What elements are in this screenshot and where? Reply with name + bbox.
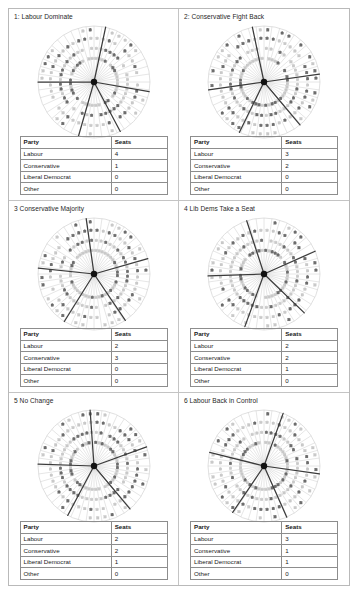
cell-party-name: Conservative (20, 352, 111, 364)
table-row: Liberal Democrat1 (191, 363, 338, 375)
column-header-seats: Seats (111, 329, 167, 341)
cell-seat-count: 0 (282, 568, 338, 580)
table-row: Labour4 (20, 148, 167, 160)
table-row: Conservative3 (20, 352, 167, 364)
wheel-canvas (35, 215, 153, 333)
cell-seat-count: 2 (111, 340, 167, 352)
seat-wheel-diagram (9, 405, 178, 527)
wheel-canvas (35, 407, 153, 525)
panel-6: 6 Labour Back in ControlPartySeatsLabour… (179, 393, 349, 585)
cell-seat-count: 2 (111, 533, 167, 545)
cell-party-name: Conservative (191, 160, 282, 172)
seat-wheel-diagram (9, 21, 178, 143)
cell-seat-count: 0 (111, 171, 167, 183)
cell-seat-count: 1 (111, 160, 167, 172)
panel-title: 3 Conservative Majority (9, 201, 178, 213)
table-row: Labour3 (191, 148, 338, 160)
panel-title: 4 Lib Dems Take a Seat (179, 201, 349, 213)
cell-party-name: Other (191, 183, 282, 195)
panel-title: 1: Labour Dominate (9, 9, 178, 21)
table-row: Labour3 (191, 533, 338, 545)
seats-table-wrapper: PartySeatsLabour4Conservative1Liberal De… (20, 136, 168, 195)
cell-party-name: Labour (20, 148, 111, 160)
column-header-party: Party (20, 329, 111, 341)
cell-party-name: Other (20, 183, 111, 195)
panel-1: 1: Labour DominatePartySeatsLabour4Conse… (9, 9, 179, 201)
cell-party-name: Conservative (20, 545, 111, 557)
cell-party-name: Labour (20, 340, 111, 352)
cell-party-name: Liberal Democrat (20, 171, 111, 183)
cell-seat-count: 0 (111, 183, 167, 195)
cell-seat-count: 2 (282, 160, 338, 172)
table-row: Liberal Democrat1 (20, 556, 167, 568)
cell-party-name: Liberal Democrat (20, 363, 111, 375)
seats-table: PartySeatsLabour4Conservative1Liberal De… (20, 136, 168, 195)
table-row: Other0 (191, 568, 338, 580)
seats-table: PartySeatsLabour2Conservative3Liberal De… (20, 328, 168, 387)
table-row: Labour2 (20, 340, 167, 352)
panel-title: 6 Labour Back in Control (179, 393, 349, 405)
seats-table-wrapper: PartySeatsLabour3Conservative2Liberal De… (190, 136, 338, 195)
cell-party-name: Labour (191, 148, 282, 160)
seat-wheel-diagram (9, 213, 178, 335)
cell-seat-count: 0 (111, 375, 167, 387)
table-row: Liberal Democrat0 (20, 363, 167, 375)
cell-party-name: Liberal Democrat (191, 171, 282, 183)
wheel-canvas (35, 23, 153, 141)
table-row: Liberal Democrat0 (191, 171, 338, 183)
table-header-row: PartySeats (20, 137, 167, 149)
cell-party-name: Other (191, 375, 282, 387)
cell-party-name: Liberal Democrat (191, 556, 282, 568)
cell-seat-count: 2 (282, 340, 338, 352)
cell-seat-count: 0 (111, 363, 167, 375)
seats-table: PartySeatsLabour3Conservative2Liberal De… (190, 136, 338, 195)
table-header-row: PartySeats (191, 522, 338, 534)
wheel-canvas (205, 215, 323, 333)
cell-party-name: Other (191, 568, 282, 580)
seats-table-wrapper: PartySeatsLabour2Conservative3Liberal De… (20, 328, 168, 387)
table-row: Conservative1 (191, 545, 338, 557)
cell-party-name: Labour (20, 533, 111, 545)
cell-seat-count: 1 (282, 545, 338, 557)
cell-seat-count: 2 (111, 545, 167, 557)
cell-party-name: Labour (191, 533, 282, 545)
column-header-seats: Seats (282, 137, 338, 149)
column-header-party: Party (191, 522, 282, 534)
panel-title: 5 No Change (9, 393, 178, 405)
column-header-party: Party (20, 137, 111, 149)
cell-seat-count: 0 (111, 568, 167, 580)
table-row: Conservative2 (20, 545, 167, 557)
seats-table: PartySeatsLabour2Conservative2Liberal De… (190, 328, 338, 387)
column-header-seats: Seats (282, 522, 338, 534)
cell-seat-count: 1 (282, 556, 338, 568)
cell-seat-count: 0 (282, 183, 338, 195)
wheel-canvas (205, 407, 323, 525)
panel-5: 5 No ChangePartySeatsLabour2Conservative… (9, 393, 179, 585)
column-header-seats: Seats (282, 329, 338, 341)
cell-seat-count: 4 (111, 148, 167, 160)
table-row: Other0 (191, 375, 338, 387)
seat-wheel-diagram (179, 213, 349, 335)
table-row: Liberal Democrat1 (191, 556, 338, 568)
cell-party-name: Labour (191, 340, 282, 352)
cell-party-name: Conservative (191, 545, 282, 557)
cell-party-name: Liberal Democrat (20, 556, 111, 568)
cell-party-name: Liberal Democrat (191, 363, 282, 375)
seats-table-wrapper: PartySeatsLabour2Conservative2Liberal De… (20, 521, 168, 580)
seats-table: PartySeatsLabour2Conservative2Liberal De… (20, 521, 168, 580)
cell-party-name: Other (20, 375, 111, 387)
table-row: Liberal Democrat0 (20, 171, 167, 183)
table-row: Conservative1 (20, 160, 167, 172)
cell-party-name: Conservative (191, 352, 282, 364)
table-row: Other0 (20, 568, 167, 580)
seat-wheel-diagram (179, 405, 349, 527)
column-header-party: Party (20, 522, 111, 534)
column-header-seats: Seats (111, 137, 167, 149)
cell-seat-count: 3 (111, 352, 167, 364)
seat-wheel-diagram (179, 21, 349, 143)
table-row: Conservative2 (191, 160, 338, 172)
seats-table: PartySeatsLabour3Conservative1Liberal De… (190, 521, 338, 580)
column-header-party: Party (191, 329, 282, 341)
panel-title: 2: Conservative Fight Back (179, 9, 349, 21)
panel-3: 3 Conservative MajorityPartySeatsLabour2… (9, 201, 179, 393)
